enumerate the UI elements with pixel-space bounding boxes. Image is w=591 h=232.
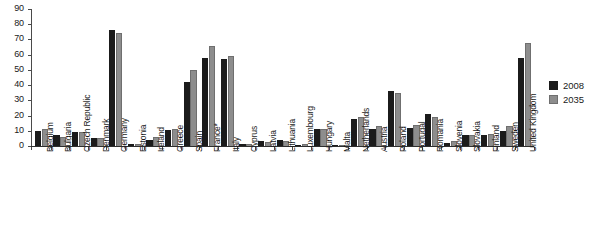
x-axis-tick-label: Portugal [417, 122, 427, 152]
y-axis-tick-label: 90 [0, 4, 24, 13]
y-axis-tick-label: 60 [0, 50, 24, 59]
y-axis-tick-label: 50 [0, 65, 24, 74]
x-axis-tick-label: Ireland [156, 127, 166, 152]
y-axis-tick [28, 70, 31, 71]
legend-label: 2035 [563, 94, 584, 105]
x-axis-tick-label: Bulgaria [63, 122, 73, 152]
legend-swatch-icon [549, 95, 558, 104]
legend-label: 2008 [563, 80, 584, 91]
x-axis-tick-label: Sweden [510, 122, 520, 152]
legend-item[interactable]: 2035 [549, 92, 584, 106]
x-axis-tick-label: Estonia [138, 125, 148, 152]
x-axis-tick-label: Czech Republic [82, 95, 92, 152]
x-axis-tick-label: Luxembourg [305, 106, 315, 152]
y-axis-tick-label: 10 [0, 126, 24, 135]
y-axis-tick-label: 80 [0, 19, 24, 28]
bar [228, 56, 234, 146]
x-axis-tick-label: Latvia [268, 130, 278, 152]
y-axis-tick-label: 70 [0, 34, 24, 43]
x-axis-tick-label: Greece [175, 125, 185, 152]
y-axis-tick [28, 39, 31, 40]
x-axis-tick-label: Malta [342, 132, 352, 152]
x-axis-tick-label: Romania [435, 119, 445, 152]
bar [35, 131, 41, 146]
chart-legend: 20082035 [549, 78, 584, 106]
y-axis-tick-label: 30 [0, 95, 24, 104]
x-axis-tick-label: Spain [194, 131, 204, 152]
y-axis-tick-label: 0 [0, 141, 24, 150]
x-axis-tick-label: France* [212, 123, 222, 152]
y-axis-tick [28, 55, 31, 56]
y-axis-tick [28, 116, 31, 117]
x-axis-tick-label: Finland [491, 125, 501, 152]
x-axis-tick-label: Netherlands [361, 108, 371, 152]
x-axis-tick-label: Slovenia [454, 121, 464, 152]
legend-item[interactable]: 2008 [549, 78, 584, 92]
x-axis-tick-label: Germany [119, 118, 129, 152]
y-axis-tick-label: 40 [0, 80, 24, 89]
y-axis-tick-label: 20 [0, 111, 24, 120]
x-axis-tick-label: United Kingdom [528, 94, 538, 152]
x-axis-tick [31, 147, 32, 150]
x-axis-tick-label: Belgium [45, 122, 55, 152]
y-axis-line [31, 9, 32, 147]
x-axis-tick-label: Denmark [101, 119, 111, 152]
y-axis-tick [28, 131, 31, 132]
x-axis-tick-label: Hungary [324, 121, 334, 152]
y-axis-tick [28, 85, 31, 86]
x-axis-tick-label: Austria [379, 127, 389, 152]
legend-swatch-icon [549, 81, 558, 90]
x-axis-tick-label: Italy [231, 137, 241, 152]
y-axis-tick [28, 24, 31, 25]
x-axis-tick-label: Lithuania [287, 119, 297, 152]
x-axis-tick-label: Poland [398, 126, 408, 152]
bar-chart: 0102030405060708090 BelgiumBulgariaCzech… [0, 0, 591, 232]
y-axis-tick [28, 9, 31, 10]
x-axis-tick-label: Slovakia [472, 121, 482, 152]
y-axis-tick [28, 100, 31, 101]
x-axis-tick-label: Cyprus [249, 126, 259, 152]
